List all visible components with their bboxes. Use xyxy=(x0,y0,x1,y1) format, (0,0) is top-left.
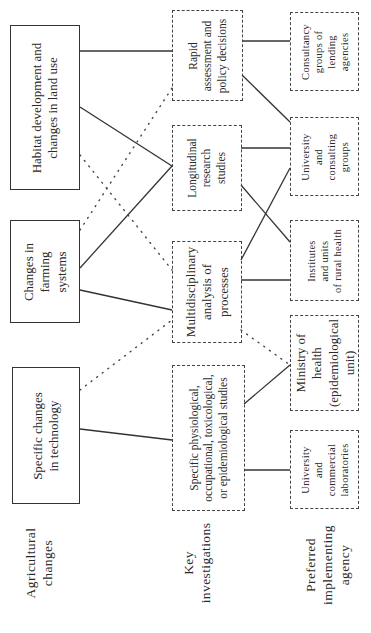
label-text: Key xyxy=(181,522,198,603)
node-text: Consultancy xyxy=(298,24,311,80)
node-text: lending xyxy=(325,24,338,80)
node-text: groups xyxy=(338,133,351,180)
node-university-commercial: Universityandcommerciallaboratories xyxy=(290,430,359,509)
node-ministry-of-health: Ministry ofhealth(epidemiologicalunit) xyxy=(290,315,359,411)
node-text: Ministry of xyxy=(292,319,308,407)
node-text: Specific changes xyxy=(30,392,46,480)
label-text: changes xyxy=(40,527,57,598)
node-university-consulting: Universityandconsultinggroups xyxy=(290,117,359,196)
node-text: and units xyxy=(318,229,331,293)
node-text: Multidisciplinary xyxy=(183,247,199,337)
node-text: Longitudinal xyxy=(185,138,199,197)
node-text: processes xyxy=(215,247,231,337)
node-text: groups of xyxy=(311,24,324,80)
node-text: Specific physiological, xyxy=(187,374,201,501)
node-text: Institutes xyxy=(305,229,318,293)
node-text: changes in land use xyxy=(45,42,61,173)
node-farming-systems: Changes infarmingsystems xyxy=(10,220,80,323)
label-text: investigations xyxy=(198,522,215,603)
node-text: occupational, toxicological, xyxy=(201,374,215,501)
node-text: University xyxy=(298,443,311,496)
node-text: Rapid xyxy=(186,18,200,92)
column-label-agricultural-changes: Agriculturalchanges xyxy=(10,515,70,610)
node-text: and xyxy=(311,133,324,180)
node-technology-changes: Specific changesin technology xyxy=(12,367,80,504)
node-text: (epidemiological xyxy=(325,319,341,407)
node-text: laboratories xyxy=(338,443,351,496)
node-text: health xyxy=(308,319,324,407)
node-text: analysis of xyxy=(199,247,215,337)
node-multidisciplinary-analysis: Multidisciplinaryanalysis ofprocesses xyxy=(172,241,242,343)
node-consultancy-groups: Consultancygroups oflendingagencies xyxy=(290,12,359,91)
node-habitat-development: Habitat development andchanges in land u… xyxy=(10,25,80,190)
node-text: studies xyxy=(214,138,228,197)
node-text: agencies xyxy=(338,24,351,80)
node-text: commercial xyxy=(325,443,338,496)
node-text: research xyxy=(200,138,214,197)
column-label-key-investigations: Keyinvestigations xyxy=(170,515,225,610)
node-text: Changes in xyxy=(21,242,37,300)
node-longitudinal-studies: Longitudinalresearchstudies xyxy=(172,125,242,211)
node-text: University xyxy=(298,133,311,180)
node-text: systems xyxy=(53,242,69,300)
column-label-implementing-agency: Preferredimplementingagency xyxy=(295,515,361,615)
node-institutes-rural-health: Institutesand unitsof rural health xyxy=(290,220,359,301)
node-text: of rural health xyxy=(331,229,344,293)
label-text: Preferred xyxy=(303,525,320,605)
node-text: assessment and xyxy=(200,18,214,92)
node-text: Habitat development and xyxy=(29,42,45,173)
label-text: Agricultural xyxy=(23,527,40,598)
node-text: farming xyxy=(37,242,53,300)
node-text: in technology xyxy=(46,392,62,480)
node-rapid-assessment: Rapidassessment andpolicy decisions xyxy=(172,10,243,101)
node-text: unit) xyxy=(341,319,357,407)
label-text: implementing xyxy=(320,525,337,605)
node-specific-studies: Specific physiological,occupational, tox… xyxy=(172,365,245,511)
node-text: policy decisions xyxy=(215,18,229,92)
node-text: and xyxy=(311,443,324,496)
node-text: consulting xyxy=(325,133,338,180)
label-text: agency xyxy=(336,525,353,605)
node-text: or epidemiological studies xyxy=(216,374,230,501)
